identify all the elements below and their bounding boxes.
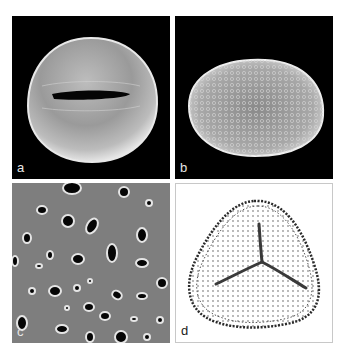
pollen-grain-b-image xyxy=(175,16,333,179)
panel-c: c xyxy=(12,183,170,343)
panel-d: d xyxy=(175,183,333,343)
panel-label-c: c xyxy=(17,325,24,338)
grain-body xyxy=(28,38,157,162)
panel-a: a xyxy=(12,16,170,179)
surface-pores-image xyxy=(12,183,170,343)
pollen-grain-a-image xyxy=(12,16,170,179)
panel-b: b xyxy=(175,16,333,179)
panel-label-a: a xyxy=(17,161,24,174)
panel-label-d: d xyxy=(181,324,188,337)
trilete-spore-image xyxy=(176,184,332,342)
panel-label-b: b xyxy=(180,161,187,174)
